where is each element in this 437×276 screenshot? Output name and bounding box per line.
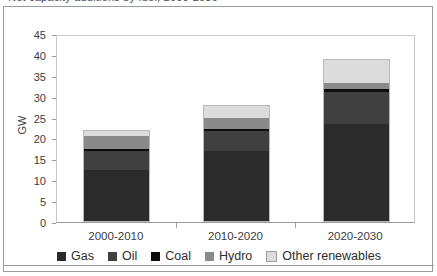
bar-segment[interactable] xyxy=(203,118,270,129)
y-tick-label: 5 xyxy=(20,197,46,208)
legend-swatch-icon xyxy=(151,252,160,261)
bar-segment[interactable] xyxy=(323,59,390,83)
legend-label: Hydro xyxy=(219,250,252,263)
y-tick-label: 15 xyxy=(20,155,46,166)
y-tick-label: 30 xyxy=(20,92,46,103)
x-tick-label: 2010-2020 xyxy=(208,230,263,242)
y-tick-label: 40 xyxy=(20,50,46,61)
y-tick-label: 10 xyxy=(20,176,46,187)
legend-swatch-icon xyxy=(266,251,277,262)
plot-area xyxy=(56,35,415,223)
bar-segment[interactable] xyxy=(83,151,150,170)
y-tick-mark xyxy=(52,223,56,224)
bar-segment[interactable] xyxy=(323,92,390,124)
bar-segment[interactable] xyxy=(83,149,150,151)
bar-segment[interactable] xyxy=(323,89,390,92)
y-tick-label: 25 xyxy=(20,113,46,124)
bar-column[interactable] xyxy=(203,34,270,222)
bar-segment[interactable] xyxy=(83,130,150,135)
legend-label: Gas xyxy=(71,250,94,263)
legend-label: Oil xyxy=(122,250,137,263)
bar-segment[interactable] xyxy=(83,170,150,222)
bar-segment[interactable] xyxy=(203,151,270,222)
legend-swatch-icon xyxy=(205,252,214,261)
legend-item[interactable]: Gas xyxy=(57,250,94,263)
bar-segment[interactable] xyxy=(203,105,270,118)
legend-item[interactable]: Hydro xyxy=(205,250,252,263)
chart-legend: GasOilCoalHydroOther renewables xyxy=(4,250,434,263)
bar-column[interactable] xyxy=(83,34,150,222)
bar-segment[interactable] xyxy=(323,83,390,89)
x-tick-mark xyxy=(295,223,296,228)
legend-item[interactable]: Other renewables xyxy=(266,250,381,263)
chart-figure-frame: GW 051015202530354045 2000-20102010-2020… xyxy=(3,6,433,272)
legend-label: Other renewables xyxy=(282,250,381,263)
bar-segment[interactable] xyxy=(203,129,270,131)
legend-item[interactable]: Oil xyxy=(108,250,137,263)
bar-segment[interactable] xyxy=(83,136,150,150)
bar-column[interactable] xyxy=(323,34,390,222)
x-tick-label: 2020-2030 xyxy=(328,230,383,242)
chart-title-fragment: Net capacity additions by fuel, 2000-203… xyxy=(8,0,218,3)
legend-swatch-icon xyxy=(57,252,66,261)
x-tick-label: 2000-2010 xyxy=(88,230,143,242)
legend-divider xyxy=(4,265,434,266)
bar-segment[interactable] xyxy=(203,131,270,151)
bar-segment[interactable] xyxy=(323,124,390,222)
y-tick-label: 20 xyxy=(20,134,46,145)
y-tick-label: 0 xyxy=(20,218,46,229)
legend-item[interactable]: Coal xyxy=(151,250,191,263)
legend-label: Coal xyxy=(165,250,191,263)
y-tick-label: 35 xyxy=(20,71,46,82)
y-tick-label: 45 xyxy=(20,30,46,41)
legend-swatch-icon xyxy=(108,252,117,261)
x-tick-mark xyxy=(176,223,177,228)
